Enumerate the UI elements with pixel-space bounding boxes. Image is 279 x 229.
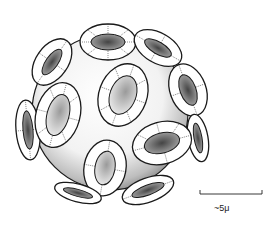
scale-bar-label: ~5μ [214,203,229,213]
scale-bar [200,190,262,194]
coccolithophore-illustration [0,0,279,229]
